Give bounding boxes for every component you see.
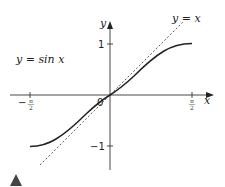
origin-label: 0 xyxy=(97,97,103,108)
minus-sign: − xyxy=(18,97,26,108)
tick-label-x-neg-pi-half: − π 2 xyxy=(18,97,34,111)
annotation-y-equals-x: y = x xyxy=(171,12,201,25)
axis-label-x: x xyxy=(204,94,211,107)
annotation-sin-x: y = sin x xyxy=(15,53,65,66)
tick-label-x-pi-half: π 2 xyxy=(189,97,195,111)
frac-num: π xyxy=(29,97,33,104)
axis-label-y: y xyxy=(99,17,107,30)
y-axis-arrow-icon xyxy=(107,21,113,29)
tick-label-y-1: 1 xyxy=(98,39,104,50)
frac-num: π xyxy=(190,97,194,104)
sine-graph: x y 0 1 −1 − π 2 π 2 y = sin x y = x xyxy=(0,0,225,187)
frac-den: 2 xyxy=(190,104,194,111)
tick-label-y-neg1: −1 xyxy=(90,141,105,152)
triangle-icon xyxy=(10,174,22,186)
frac-den: 2 xyxy=(29,104,33,111)
